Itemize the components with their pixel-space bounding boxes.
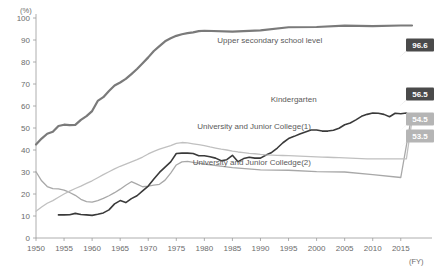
x-axis-group: 1950195519601965197019751980198519901995… [27, 238, 432, 253]
x-tick-label: 1965 [111, 244, 129, 253]
value-callout: 96.6 [399, 39, 434, 58]
value-callout: 53.5 [399, 130, 434, 149]
x-tick-label: 1985 [224, 244, 242, 253]
callout-value: 96.6 [412, 41, 428, 50]
y-axis-group: 0102030405060708090100 [17, 14, 36, 243]
y-tick-label: 0 [26, 234, 31, 243]
x-tick-label: 1995 [280, 244, 298, 253]
x-axis-ticks: 1950195519601965197019751980198519901995… [27, 238, 410, 253]
value-callout: 54.5 [399, 113, 434, 132]
y-tick-label: 70 [21, 80, 30, 89]
x-tick-label: 1960 [83, 244, 101, 253]
x-tick-label: 1975 [167, 244, 185, 253]
y-tick-label: 20 [21, 190, 30, 199]
callout-value: 53.5 [412, 132, 428, 141]
value-callouts: 96.656.554.553.5 [399, 39, 434, 149]
y-tick-label: 40 [21, 146, 30, 155]
x-tick-label: 1980 [195, 244, 213, 253]
callout-value: 56.5 [412, 90, 428, 99]
x-tick-label: 1990 [252, 244, 270, 253]
x-tick-label: 2000 [308, 244, 326, 253]
x-tick-label: 2005 [336, 244, 354, 253]
line-chart: 0102030405060708090100 19501955196019651… [0, 0, 447, 270]
x-tick-label: 1970 [139, 244, 157, 253]
x-tick-label: 2015 [392, 244, 410, 253]
y-tick-label: 10 [21, 212, 30, 221]
y-tick-label: 100 [17, 14, 31, 23]
y-tick-label: 50 [21, 124, 30, 133]
series-label: University and Junior College(1) [197, 122, 311, 131]
callout-pointer [399, 51, 407, 58]
chart-container: 0102030405060708090100 19501955196019651… [0, 0, 447, 270]
y-axis-unit-label: (%) [20, 6, 32, 15]
series-label: Kindergarten [271, 95, 317, 104]
y-tick-label: 30 [21, 168, 30, 177]
series-label: Upper secondary school level [217, 36, 322, 45]
x-axis-unit-label: (FY) [409, 257, 424, 266]
x-tick-label: 1955 [55, 244, 73, 253]
x-tick-label: 1950 [27, 244, 45, 253]
y-tick-label: 90 [21, 36, 30, 45]
x-tick-label: 2010 [364, 244, 382, 253]
callout-value: 54.5 [412, 115, 428, 124]
value-callout: 56.5 [399, 88, 434, 107]
y-tick-label: 80 [21, 58, 30, 67]
series-lines [36, 25, 412, 215]
callout-pointer [399, 125, 407, 132]
series-label: University and Junior Colledge(2) [193, 158, 312, 167]
y-tick-label: 60 [21, 102, 30, 111]
callout-pointer [399, 100, 407, 107]
y-axis-ticks: 0102030405060708090100 [17, 14, 36, 243]
